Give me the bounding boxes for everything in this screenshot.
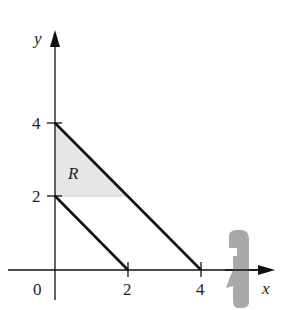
region-label: R bbox=[67, 164, 79, 183]
y-tick-label-2: 2 bbox=[32, 187, 41, 206]
figure-canvas: y x 0 2 4 4 2 R bbox=[0, 0, 295, 310]
rotation-arrow-icon bbox=[226, 230, 249, 308]
x-tick-label-4: 4 bbox=[196, 280, 205, 299]
y-axis-label: y bbox=[32, 29, 42, 48]
line-x-plus-y-2 bbox=[55, 196, 128, 270]
y-tick-label-4: 4 bbox=[32, 114, 41, 133]
origin-label: 0 bbox=[33, 280, 42, 299]
x-axis-label: x bbox=[261, 279, 270, 298]
y-axis-arrow-icon bbox=[50, 30, 60, 47]
x-tick-label-2: 2 bbox=[123, 280, 132, 299]
